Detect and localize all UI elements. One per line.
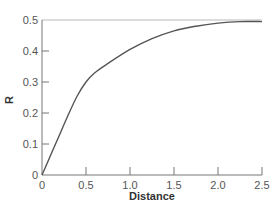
x-tick-label: 2.0 bbox=[210, 179, 225, 191]
y-axis-title: R bbox=[3, 96, 15, 104]
x-tick-label: 0.5 bbox=[78, 179, 93, 191]
data-curve bbox=[42, 21, 262, 175]
y-ticks: 00.10.20.30.40.5 bbox=[23, 14, 49, 181]
x-axis-title: Distance bbox=[129, 190, 175, 202]
x-tick-label: 0 bbox=[39, 179, 45, 191]
y-tick-label: 0.3 bbox=[23, 76, 38, 88]
y-tick-label: 0.2 bbox=[23, 107, 38, 119]
y-tick-label: 0.4 bbox=[23, 45, 38, 57]
y-tick-label: 0.1 bbox=[23, 138, 38, 150]
y-tick-label: 0.5 bbox=[23, 14, 38, 26]
line-chart: 00.10.20.30.40.5 00.51.01.52.02.5 Distan… bbox=[0, 0, 278, 213]
x-ticks: 00.51.01.52.02.5 bbox=[39, 167, 270, 191]
y-tick-label: 0 bbox=[32, 169, 38, 181]
x-tick-label: 2.5 bbox=[254, 179, 269, 191]
